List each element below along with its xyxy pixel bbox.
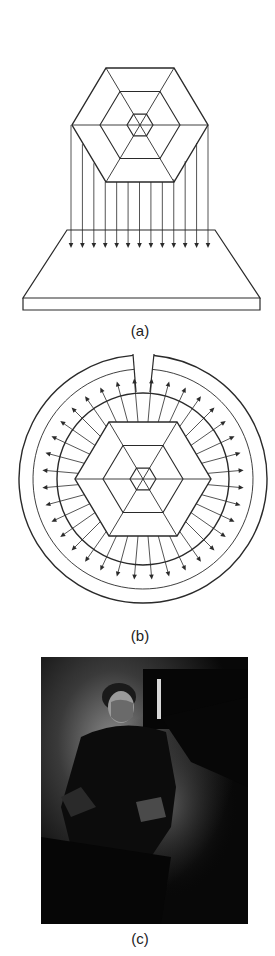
caption-a: (a) [0, 322, 275, 339]
panel-b-diagram [0, 340, 275, 630]
flat-plate [23, 230, 260, 310]
caption-b: (b) [0, 627, 275, 644]
caption-c: (c) [0, 930, 275, 947]
photo-seated-man [41, 657, 248, 924]
hexagon-object [72, 68, 208, 182]
panel-a-diagram [0, 0, 275, 320]
hexagon-object [75, 422, 211, 536]
